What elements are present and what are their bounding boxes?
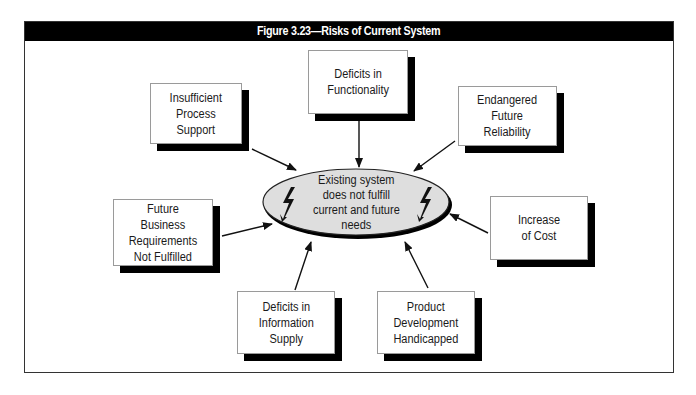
risk-box-increase-of-cost: Increase of Cost [490, 196, 588, 260]
risk-label: Deficits in Functionality [327, 66, 389, 98]
risk-label: Deficits in Information Supply [258, 299, 313, 347]
risk-box-deficits-in-information-supply: Deficits in Information Supply [237, 291, 335, 354]
risk-box-future-business-requirements: Future Business Requirements Not Fulfill… [113, 199, 213, 266]
risk-box-endangered-future-reliability: Endangered Future Reliability [458, 86, 557, 146]
risk-label: Future Business Requirements Not Fulfill… [129, 201, 197, 265]
center-statement-text: Existing system does not fulfill current… [313, 173, 400, 233]
risk-box-insufficient-process-support: Insufficient Process Support [150, 83, 242, 144]
center-statement: Existing system does not fulfill current… [290, 172, 422, 234]
risk-box-product-development-handicapped: Product Development Handicapped [377, 291, 475, 354]
figure-title-bar: Figure 3.23—Risks of Current System [25, 22, 673, 41]
risk-label: Increase of Cost [518, 212, 560, 244]
risk-label: Insufficient Process Support [170, 90, 222, 138]
risk-label: Product Development Handicapped [394, 299, 459, 347]
figure-title: Figure 3.23—Risks of Current System [257, 22, 440, 41]
risk-box-deficits-in-functionality: Deficits in Functionality [308, 50, 408, 114]
risk-label: Endangered Future Reliability [478, 92, 538, 140]
